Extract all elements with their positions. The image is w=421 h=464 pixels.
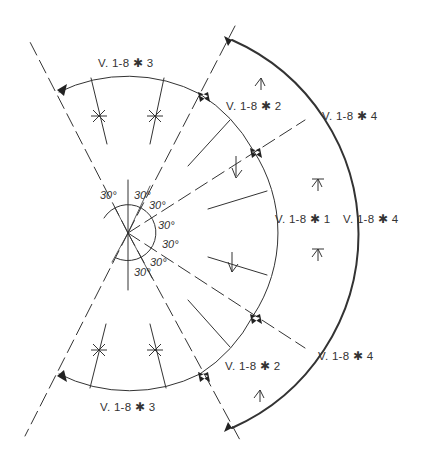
radial-diagram: V. 1-8 ✱ 3 V. 1-8 ✱ 2 V. 1-8 ✱ 4 V. 1-8 … [0,0,421,464]
angle-label: 30° [158,219,175,231]
angle-label: 30° [134,266,151,278]
inner-arc-right [253,150,278,316]
label-lower-right: V. 1-8 ✱ 4 [318,350,374,362]
label-top-inner: V. 1-8 ✱ 3 [98,57,153,69]
label-center-outer: V. 1-8 ✱ 4 [343,213,399,225]
angle-label: 30° [100,189,117,201]
label-lower-mid: V. 1-8 ✱ 2 [225,360,280,372]
arrowheads [57,36,262,432]
angle-label: 30° [162,238,179,250]
label-upper-mid: V. 1-8 ✱ 2 [226,100,281,112]
label-center-inner: V. 1-8 ✱ 1 [275,213,330,225]
inner-arc-top [59,76,200,94]
label-upper-right: V. 1-8 ✱ 4 [322,110,378,122]
angle-label: 30° [149,199,166,211]
angle-label: 30° [150,256,167,268]
label-bottom-inner: V. 1-8 ✱ 3 [100,401,155,413]
riser-symbols [91,110,163,356]
inner-arc-bottom [59,374,200,391]
